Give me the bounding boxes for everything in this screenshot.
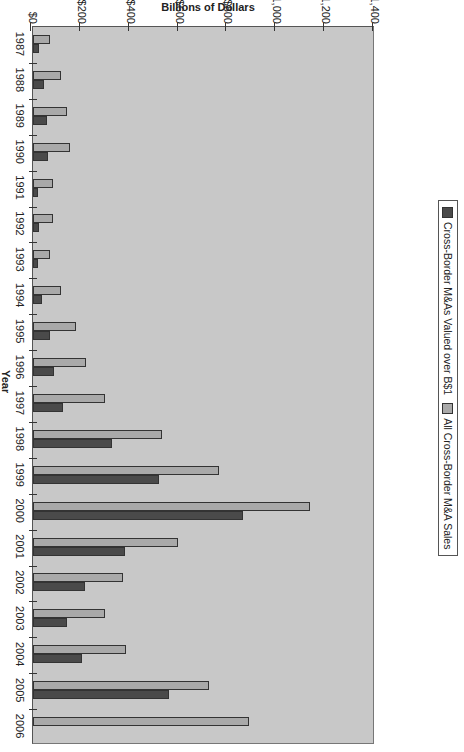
bar-1995-all-sales: [33, 322, 76, 331]
bar-1990-large-deals: [33, 152, 48, 161]
bar-1997-all-sales: [33, 394, 105, 403]
x-tick-label: 2001: [14, 527, 26, 567]
x-tick: [29, 171, 37, 172]
y-tick: [30, 23, 31, 31]
bar-1987-all-sales: [33, 35, 50, 44]
bar-2004-large-deals: [33, 654, 82, 663]
x-tick-label: 1991: [14, 168, 26, 208]
bar-1998-all-sales: [33, 430, 162, 439]
bar-1995-large-deals: [33, 331, 50, 340]
bar-1997-large-deals: [33, 403, 63, 412]
x-tick: [29, 422, 37, 423]
bar-2002-large-deals: [33, 582, 85, 591]
x-tick-label: 2005: [14, 670, 26, 710]
bar-1993-large-deals: [33, 259, 38, 268]
x-tick: [29, 207, 37, 208]
legend-label: All Cross-Border M&A Sales: [442, 418, 454, 549]
legend: Cross-Border M&As Valued over B$1 All Cr…: [438, 200, 458, 556]
x-tick-label: 1987: [14, 24, 26, 64]
x-tick-label: 1995: [14, 311, 26, 351]
y-tick-label: $800: [222, 0, 234, 24]
legend-item-all-sales: All Cross-Border M&A Sales: [442, 403, 455, 549]
x-tick: [29, 314, 37, 315]
y-tick-label: $200: [76, 0, 88, 24]
bar-2002-all-sales: [33, 573, 123, 582]
y-tick-label: $1,000: [271, 0, 283, 24]
x-tick-label: 1998: [14, 419, 26, 459]
y-tick: [274, 23, 275, 31]
x-tick: [29, 494, 37, 495]
x-tick: [29, 350, 37, 351]
y-tick-label: $400: [125, 0, 137, 24]
bar-1992-all-sales: [33, 214, 53, 223]
x-tick-label: 2003: [14, 598, 26, 638]
chart-canvas: Billions of Dollars $0$200$400$600$800$1…: [0, 0, 464, 752]
x-tick: [29, 637, 37, 638]
x-tick: [29, 386, 37, 387]
x-tick: [29, 242, 37, 243]
bar-1996-large-deals: [33, 367, 54, 376]
bar-1994-large-deals: [33, 295, 42, 304]
bar-2005-all-sales: [33, 681, 209, 690]
x-tick: [29, 673, 37, 674]
bar-1989-all-sales: [33, 107, 67, 116]
x-tick: [29, 458, 37, 459]
x-tick: [29, 709, 37, 710]
bar-2001-all-sales: [33, 538, 178, 547]
x-tick-label: 1988: [14, 60, 26, 100]
x-tick-label: 1999: [14, 455, 26, 495]
y-tick: [177, 23, 178, 31]
bar-2004-all-sales: [33, 645, 126, 654]
bar-1994-all-sales: [33, 286, 61, 295]
bar-2005-large-deals: [33, 690, 169, 699]
x-tick-label: 1993: [14, 239, 26, 279]
x-tick: [29, 530, 37, 531]
y-tick: [128, 23, 129, 31]
y-tick: [79, 23, 80, 31]
x-axis-title: Year: [0, 370, 12, 393]
y-tick-label: $600: [174, 0, 186, 24]
x-tick: [29, 601, 37, 602]
bar-1990-all-sales: [33, 143, 70, 152]
bar-2000-all-sales: [33, 502, 310, 511]
bar-1988-large-deals: [33, 80, 44, 89]
bar-1988-all-sales: [33, 71, 61, 80]
x-tick-label: 2004: [14, 634, 26, 674]
x-tick-label: 1997: [14, 383, 26, 423]
bar-2006-all-sales: [33, 717, 249, 726]
bar-1993-all-sales: [33, 250, 50, 259]
x-tick: [29, 278, 37, 279]
x-tick-label: 2006: [14, 706, 26, 746]
y-tick-label: $1,400: [369, 0, 381, 24]
bar-1996-all-sales: [33, 358, 86, 367]
x-tick-label: 1996: [14, 347, 26, 387]
x-tick-label: 1990: [14, 132, 26, 172]
legend-label: Cross-Border M&As Valued over B$1: [442, 222, 454, 395]
y-tick: [323, 23, 324, 31]
y-tick-label: $0: [27, 12, 39, 24]
x-tick: [29, 135, 37, 136]
x-tick-label: 1992: [14, 203, 26, 243]
x-tick-label: 2002: [14, 562, 26, 602]
legend-item-large-deals: Cross-Border M&As Valued over B$1: [442, 207, 455, 395]
y-tick: [372, 23, 373, 31]
x-tick: [29, 63, 37, 64]
bar-1991-large-deals: [33, 188, 38, 197]
x-tick-label: 2000: [14, 491, 26, 531]
bar-1987-large-deals: [33, 44, 39, 53]
bar-2003-large-deals: [33, 618, 67, 627]
x-tick: [29, 99, 37, 100]
bar-1998-large-deals: [33, 439, 112, 448]
legend-swatch-light: [442, 403, 453, 414]
x-tick-label: 1989: [14, 96, 26, 136]
bar-1991-all-sales: [33, 179, 53, 188]
plot-area: [32, 26, 374, 744]
bar-1992-large-deals: [33, 223, 39, 232]
x-tick-label: 1994: [14, 275, 26, 315]
y-tick-label: $1,200: [320, 0, 332, 24]
legend-swatch-dark: [442, 207, 453, 218]
bar-2003-all-sales: [33, 609, 105, 618]
y-tick: [225, 23, 226, 31]
bar-2001-large-deals: [33, 547, 125, 556]
bar-2000-large-deals: [33, 511, 243, 520]
